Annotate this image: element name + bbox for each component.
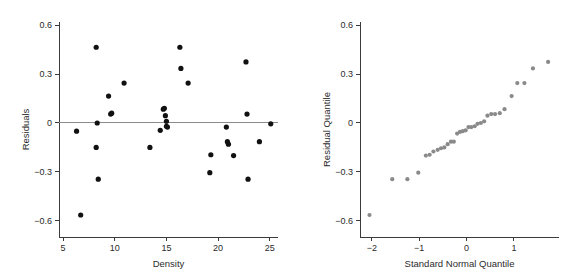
x-tick-label: 0 [464, 243, 469, 253]
data-point [502, 107, 506, 111]
data-point [165, 124, 170, 129]
data-point [452, 140, 456, 144]
data-point [257, 139, 262, 144]
data-point [243, 59, 248, 64]
data-point [510, 94, 514, 98]
data-point [121, 80, 126, 85]
data-point [485, 114, 489, 118]
data-point [158, 128, 163, 133]
x-axis-title: Density [153, 258, 185, 269]
data-point [231, 153, 236, 158]
y-tick-label: 0 [348, 118, 353, 128]
data-point [522, 81, 526, 85]
data-point [178, 66, 183, 71]
data-point [226, 142, 231, 147]
x-tick-label: 1 [511, 243, 516, 253]
panel-normal-qq-plot: −0.6−0.300.30.6−2−101Standard Normal Qua… [283, 0, 565, 274]
data-point [390, 177, 394, 181]
y-tick-label: 0 [47, 118, 52, 128]
data-point [489, 112, 493, 116]
data-point [245, 177, 250, 182]
data-point [94, 45, 99, 50]
x-tick-label: 25 [265, 243, 275, 253]
data-point [207, 170, 212, 175]
y-axis-title: Residuals [20, 108, 31, 150]
x-tick-label: 20 [213, 243, 223, 253]
data-point [78, 212, 83, 217]
data-point [106, 94, 111, 99]
data-point [493, 112, 497, 116]
x-tick-label: −2 [367, 243, 377, 253]
data-point [186, 80, 191, 85]
data-point-group [367, 60, 550, 217]
data-point [163, 113, 168, 118]
data-point [416, 171, 420, 175]
data-point [405, 177, 409, 181]
data-point [464, 128, 468, 132]
data-point [442, 145, 446, 149]
data-point [431, 149, 435, 153]
y-tick-label: −0.6 [335, 216, 353, 226]
data-point [95, 120, 100, 125]
data-point [164, 119, 169, 124]
data-point [367, 213, 371, 217]
data-point [96, 177, 101, 182]
x-axis-title: Standard Normal Quantile [405, 258, 515, 269]
y-tick-label: 0.6 [340, 20, 353, 30]
x-tick-label: 10 [110, 243, 120, 253]
data-point [109, 111, 114, 116]
y-tick-label: −0.3 [335, 167, 353, 177]
data-point [498, 111, 502, 115]
y-axis-title: Residual Quantile [321, 92, 332, 167]
x-tick-label: −1 [414, 243, 424, 253]
data-point [147, 145, 152, 150]
data-point [244, 111, 249, 116]
data-point [162, 106, 167, 111]
y-tick-label: 0.3 [39, 69, 52, 79]
data-point [268, 121, 273, 126]
data-point [482, 119, 486, 123]
data-point [94, 145, 99, 150]
data-point [208, 152, 213, 157]
data-point [531, 66, 535, 70]
y-tick-label: 0.6 [39, 20, 52, 30]
data-point [428, 153, 432, 157]
residuals-vs-density-plot: −0.6−0.300.30.6510152025DensityResiduals [0, 0, 283, 274]
data-point [515, 81, 519, 85]
y-tick-label: −0.6 [34, 216, 52, 226]
figure-container: −0.6−0.300.30.6510152025DensityResiduals… [0, 0, 565, 274]
normal-qq-plot: −0.6−0.300.30.6−2−101Standard Normal Qua… [283, 0, 565, 274]
data-point [546, 60, 550, 64]
data-point-group [74, 45, 273, 218]
data-point [177, 45, 182, 50]
y-tick-label: 0.3 [340, 69, 353, 79]
x-tick-label: 15 [161, 243, 171, 253]
panel-residuals-vs-density: −0.6−0.300.30.6510152025DensityResiduals… [0, 0, 283, 274]
data-point [74, 129, 79, 134]
y-tick-label: −0.3 [34, 167, 52, 177]
data-point [224, 124, 229, 129]
data-point [424, 153, 428, 157]
x-tick-label: 5 [61, 243, 66, 253]
